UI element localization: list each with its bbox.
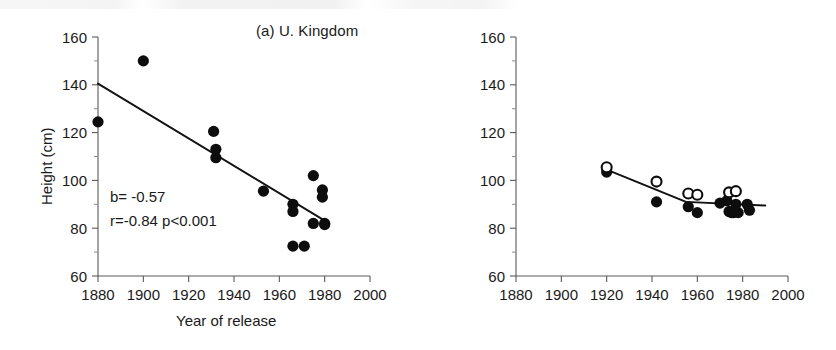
data-point-filled bbox=[317, 192, 328, 203]
x-tick-label: 1920 bbox=[590, 286, 623, 303]
figure-container: 6080100120140160188019001920194019601980… bbox=[0, 0, 836, 350]
data-point-filled bbox=[308, 170, 319, 181]
data-point-filled bbox=[208, 126, 219, 137]
x-tick-label: 1940 bbox=[635, 286, 668, 303]
y-tick-label: 160 bbox=[480, 29, 505, 46]
x-tick-label: 1880 bbox=[81, 286, 114, 303]
data-point-open bbox=[602, 162, 612, 172]
stat-correlation-uk: r=-0.84 p<0.001 bbox=[110, 212, 217, 229]
x-tick-label: 1980 bbox=[726, 286, 759, 303]
data-point-filled bbox=[744, 205, 755, 216]
x-tick-label: 2000 bbox=[771, 286, 804, 303]
data-point-filled bbox=[287, 206, 298, 217]
data-point-filled bbox=[733, 207, 744, 218]
data-point-filled bbox=[92, 116, 103, 127]
panel-title-uk: (a) U. Kingdom bbox=[256, 22, 358, 39]
y-tick-label: 100 bbox=[480, 172, 505, 189]
data-point-filled bbox=[319, 219, 330, 230]
y-tick-label: 60 bbox=[70, 268, 87, 285]
y-tick-label: 140 bbox=[62, 76, 87, 93]
data-point-open bbox=[692, 190, 702, 200]
x-tick-label: 1900 bbox=[545, 286, 578, 303]
y-tick-label: 100 bbox=[62, 172, 87, 189]
x-tick-label: 2000 bbox=[353, 286, 386, 303]
x-axis-label-uk: Year of release bbox=[176, 312, 276, 329]
data-point-filled bbox=[258, 186, 269, 197]
regression-line bbox=[607, 170, 766, 206]
data-point-open bbox=[652, 177, 662, 187]
y-axis-label-uk: Height (cm) bbox=[38, 127, 55, 205]
data-point-filled bbox=[287, 241, 298, 252]
panel-uk: 6080100120140160188019001920194019601980… bbox=[0, 0, 418, 350]
y-tick-label: 80 bbox=[70, 220, 87, 237]
data-point-filled bbox=[692, 207, 703, 218]
panel-usa: 6080100120140160188019001920194019601980… bbox=[418, 0, 836, 350]
data-point-filled bbox=[651, 196, 662, 207]
data-point-filled bbox=[299, 241, 310, 252]
y-tick-label: 120 bbox=[62, 124, 87, 141]
y-tick-label: 120 bbox=[480, 124, 505, 141]
x-tick-label: 1880 bbox=[499, 286, 532, 303]
y-tick-label: 80 bbox=[488, 220, 505, 237]
data-point-filled bbox=[210, 152, 221, 163]
x-tick-label: 1940 bbox=[217, 286, 250, 303]
x-tick-label: 1900 bbox=[127, 286, 160, 303]
y-tick-label: 160 bbox=[62, 29, 87, 46]
y-tick-label: 140 bbox=[480, 76, 505, 93]
plot-area-uk: 6080100120140160188019001920194019601980… bbox=[0, 0, 418, 350]
x-tick-label: 1920 bbox=[172, 286, 205, 303]
x-tick-label: 1960 bbox=[681, 286, 714, 303]
stat-slope-uk: b= -0.57 bbox=[110, 188, 165, 205]
data-point-filled bbox=[138, 55, 149, 66]
data-point-open bbox=[731, 186, 741, 196]
plot-area-usa: 6080100120140160188019001920194019601980… bbox=[418, 0, 836, 350]
y-tick-label: 60 bbox=[488, 268, 505, 285]
x-tick-label: 1980 bbox=[308, 286, 341, 303]
data-point-filled bbox=[308, 218, 319, 229]
x-tick-label: 1960 bbox=[263, 286, 296, 303]
